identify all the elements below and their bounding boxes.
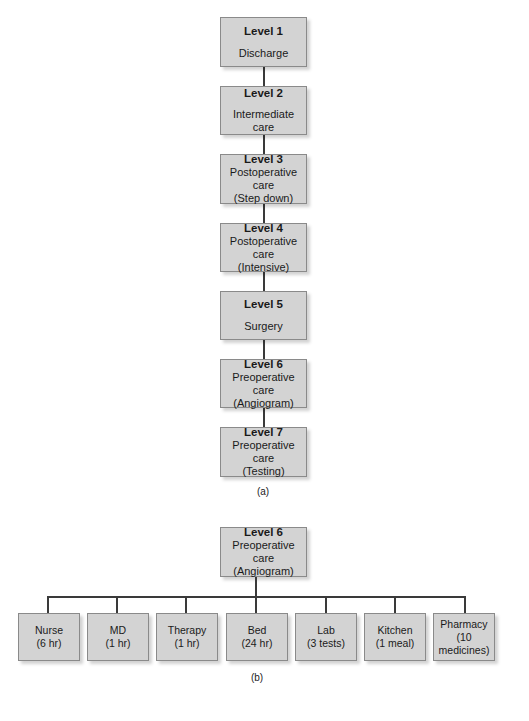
resource-amount: (24 hr) xyxy=(242,637,273,650)
level-6-root-box: Level 6 Preoperative care (Angiogram) xyxy=(220,527,307,577)
branch-lab xyxy=(325,596,327,613)
connector-2-3 xyxy=(263,135,265,154)
connector-3-4 xyxy=(263,204,265,223)
level-desc: (Intensive) xyxy=(238,261,289,274)
branch-nurse xyxy=(47,596,49,613)
level-desc: (Step down) xyxy=(234,192,293,205)
level-desc: (Angiogram) xyxy=(233,397,294,410)
branch-therapy xyxy=(185,596,187,613)
level-title: Level 7 xyxy=(244,426,283,439)
resource-name: Therapy xyxy=(168,624,207,637)
level-desc: Surgery xyxy=(244,320,283,333)
level-desc: Intermediate care xyxy=(221,108,306,134)
resource-kitchen-box: Kitchen (1 meal) xyxy=(364,613,426,661)
level-5-box: Level 5 Surgery xyxy=(220,291,307,340)
level-desc: Preoperative care xyxy=(221,539,306,565)
level-title: Level 2 xyxy=(244,87,283,100)
resource-amount: (1 meal) xyxy=(376,637,415,650)
level-desc: Discharge xyxy=(239,47,289,60)
level-title: Level 1 xyxy=(244,25,283,38)
connector-5-6 xyxy=(263,340,265,359)
level-4-box: Level 4 Postoperative care (Intensive) xyxy=(220,223,307,272)
connector-4-5 xyxy=(263,272,265,291)
branch-md xyxy=(116,596,118,613)
level-desc: Preoperative care xyxy=(221,439,306,465)
resource-name: MD xyxy=(110,624,126,637)
resource-amount: (1 hr) xyxy=(174,637,199,650)
resource-md-box: MD (1 hr) xyxy=(87,613,149,661)
branch-bed xyxy=(255,596,257,613)
level-2-box: Level 2 Intermediate care xyxy=(220,86,307,135)
level-title: Level 6 xyxy=(244,358,283,371)
level-1-box: Level 1 Discharge xyxy=(220,17,307,67)
resource-bed-box: Bed (24 hr) xyxy=(226,613,288,661)
resource-amount: medicines) xyxy=(439,644,490,657)
resource-lab-box: Lab (3 tests) xyxy=(295,613,357,661)
branch-kitchen xyxy=(394,596,396,613)
root-connector xyxy=(255,577,257,596)
resource-name: Pharmacy xyxy=(440,618,487,631)
connector-6-7 xyxy=(263,408,265,427)
resource-name: Kitchen xyxy=(377,624,412,637)
level-title: Level 6 xyxy=(244,526,283,539)
resource-name: Nurse xyxy=(35,624,63,637)
level-6-box: Level 6 Preoperative care (Angiogram) xyxy=(220,359,307,408)
level-desc: Postoperative care xyxy=(221,235,306,261)
connector-1-2 xyxy=(263,67,265,86)
level-7-box: Level 7 Preoperative care (Testing) xyxy=(220,427,307,477)
level-desc: Postoperative care xyxy=(221,166,306,192)
level-desc: Preoperative care xyxy=(221,371,306,397)
level-desc: (Testing) xyxy=(242,465,284,478)
level-3-box: Level 3 Postoperative care (Step down) xyxy=(220,154,307,204)
level-desc: (Angiogram) xyxy=(233,565,294,578)
level-title: Level 4 xyxy=(244,222,283,235)
caption-b: (b) xyxy=(242,672,272,683)
resource-amount: (10 xyxy=(456,631,471,644)
resource-name: Bed xyxy=(248,624,267,637)
level-title: Level 5 xyxy=(244,298,283,311)
resource-amount: (1 hr) xyxy=(105,637,130,650)
resource-pharmacy-box: Pharmacy (10 medicines) xyxy=(433,613,495,661)
caption-a: (a) xyxy=(248,486,278,497)
resource-amount: (6 hr) xyxy=(36,637,61,650)
level-title: Level 3 xyxy=(244,153,283,166)
branch-pharmacy xyxy=(464,596,466,613)
resource-nurse-box: Nurse (6 hr) xyxy=(18,613,80,661)
resource-name: Lab xyxy=(317,624,335,637)
resource-therapy-box: Therapy (1 hr) xyxy=(156,613,218,661)
resource-amount: (3 tests) xyxy=(307,637,345,650)
